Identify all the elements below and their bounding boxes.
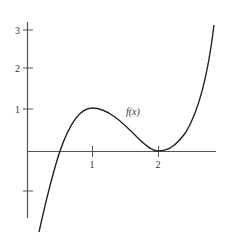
function-curve [39, 25, 214, 232]
x-tick-label-2: 2 [156, 159, 161, 170]
function-label: f(x) [126, 106, 141, 118]
y-tick-label-1: 1 [15, 104, 20, 115]
y-tick-label-2: 2 [15, 63, 20, 74]
function-plot: 3 2 1 1 2 f(x) [0, 0, 230, 246]
y-tick-label-3: 3 [15, 25, 20, 36]
x-tick-label-1: 1 [90, 159, 95, 170]
